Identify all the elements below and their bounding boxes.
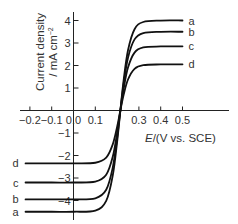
series-label-d-start: d xyxy=(12,157,18,169)
series-label-a-start: a xyxy=(12,206,19,218)
y-tick-label: −1 xyxy=(58,127,71,139)
y-tick-label: 4 xyxy=(64,15,70,27)
series-label-d-end: d xyxy=(189,58,195,70)
x-axis-title: E/(V vs. SCE) xyxy=(145,132,216,144)
series-label-c-start: c xyxy=(13,177,19,189)
current-density-chart: −0.2−0.10.00.10.30.40.5 4321−1−2−3−4 Cur… xyxy=(0,0,238,224)
x-ticks: −0.2−0.10.00.10.30.40.5 xyxy=(19,107,190,126)
y-tick-label: −2 xyxy=(58,150,71,162)
y-tick-label: 3 xyxy=(64,37,70,49)
y-axis-title-line1: Current density xyxy=(34,13,46,91)
series-label-b-start: b xyxy=(12,193,18,205)
y-tick-label: −4 xyxy=(58,195,71,207)
y-axis-title-line2: / mA cm−2 xyxy=(47,27,59,77)
series-label-b-end: b xyxy=(189,26,195,38)
series-label-a-end: a xyxy=(189,15,196,27)
x-tick-label: −0.1 xyxy=(41,114,63,126)
y-tick-label: 2 xyxy=(64,60,70,72)
y-axis-title: Current density / mA cm−2 xyxy=(34,13,59,91)
x-tick-label: 0.5 xyxy=(175,114,190,126)
series-label-c-end: c xyxy=(189,40,195,52)
y-tick-label: 1 xyxy=(64,82,70,94)
x-tick-label: −0.2 xyxy=(19,114,41,126)
x-tick-label: 0.4 xyxy=(153,114,168,126)
x-tick-label: 0.3 xyxy=(131,114,146,126)
x-tick-label: 0.0 xyxy=(66,114,81,126)
x-tick-label: 0.1 xyxy=(88,114,103,126)
